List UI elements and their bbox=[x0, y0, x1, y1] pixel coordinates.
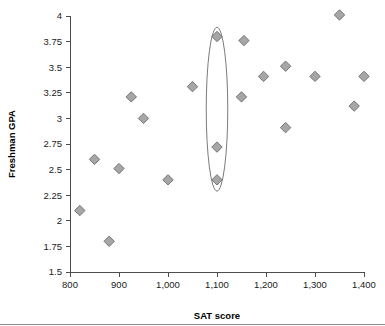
y-axis: 1.51.7522.252.52.7533.253.53.754 bbox=[44, 10, 71, 277]
x-tick-label: 1,400 bbox=[352, 279, 376, 290]
outlier-highlight-ellipse bbox=[206, 27, 228, 191]
x-tick-label: 1,000 bbox=[156, 279, 180, 290]
data-point-marker bbox=[310, 71, 320, 81]
y-tick-label: 4 bbox=[57, 10, 62, 21]
annotations-layer bbox=[206, 27, 228, 191]
data-points-layer bbox=[75, 10, 370, 247]
data-point-marker bbox=[187, 81, 197, 91]
data-point-marker bbox=[334, 10, 344, 20]
scatter-plot-figure: 1.51.7522.252.52.7533.253.53.754 8009001… bbox=[0, 0, 385, 326]
y-tick-label: 3.5 bbox=[49, 62, 62, 73]
y-axis-title: Freshman GPA bbox=[6, 110, 17, 178]
data-point-marker bbox=[126, 92, 136, 102]
y-tick-label: 2.75 bbox=[44, 138, 63, 149]
data-point-marker bbox=[236, 92, 246, 102]
data-point-marker bbox=[349, 101, 359, 111]
data-point-marker bbox=[114, 163, 124, 173]
data-point-marker bbox=[138, 113, 148, 123]
x-tick-label: 1,300 bbox=[303, 279, 327, 290]
data-point-marker bbox=[359, 71, 369, 81]
data-point-marker bbox=[239, 35, 249, 45]
x-tick-label: 900 bbox=[111, 279, 127, 290]
data-point-marker bbox=[163, 175, 173, 185]
y-tick-label: 1.5 bbox=[49, 266, 62, 277]
data-point-marker bbox=[280, 122, 290, 132]
data-point-marker bbox=[280, 61, 290, 71]
x-axis: 8009001,0001,1001,2001,3001,400 bbox=[62, 272, 376, 290]
chart-canvas: 1.51.7522.252.52.7533.253.53.754 8009001… bbox=[0, 0, 385, 326]
y-tick-label: 1.75 bbox=[44, 241, 63, 252]
data-point-marker bbox=[75, 205, 85, 215]
data-point-marker bbox=[258, 71, 268, 81]
x-tick-label: 1,100 bbox=[205, 279, 229, 290]
y-tick-label: 2 bbox=[57, 215, 62, 226]
y-tick-label: 2.25 bbox=[44, 190, 63, 201]
y-tick-label: 3.75 bbox=[44, 36, 63, 47]
data-point-marker bbox=[89, 154, 99, 164]
data-point-marker bbox=[212, 142, 222, 152]
x-axis-title: SAT score bbox=[194, 310, 240, 321]
data-point-marker bbox=[104, 236, 114, 246]
x-tick-label: 800 bbox=[62, 279, 78, 290]
y-tick-label: 3.25 bbox=[44, 87, 63, 98]
y-tick-label: 3 bbox=[57, 113, 62, 124]
data-point-marker bbox=[212, 175, 222, 185]
y-tick-label: 2.5 bbox=[49, 164, 62, 175]
x-tick-label: 1,200 bbox=[254, 279, 278, 290]
